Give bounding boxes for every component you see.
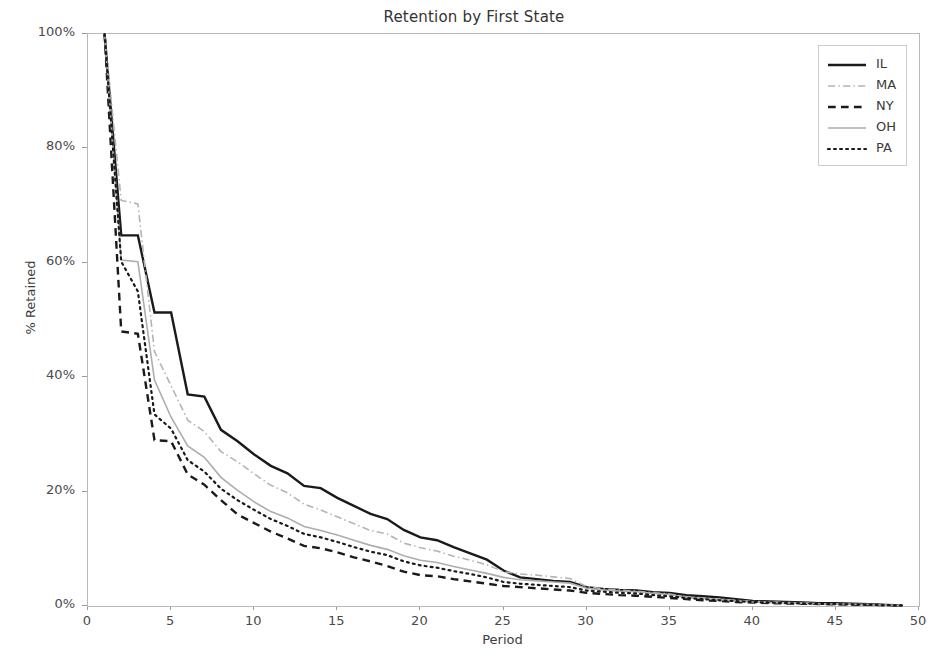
- chart-legend: ILMANYOHPA: [818, 45, 907, 166]
- y-tick-label: 100%: [38, 24, 75, 39]
- x-tick-label: 0: [83, 613, 91, 628]
- legend-item-il[interactable]: IL: [827, 53, 896, 74]
- x-tick-label: 35: [660, 613, 677, 628]
- legend-label-il: IL: [876, 57, 887, 70]
- y-tick-label: 80%: [46, 138, 75, 153]
- legend-label-ma: MA: [876, 78, 896, 91]
- legend-swatch-il: [827, 57, 867, 71]
- chart-figure: Retention by First State % Retained Peri…: [0, 0, 948, 669]
- x-tick-label: 10: [245, 613, 262, 628]
- chart-title: Retention by First State: [0, 8, 948, 26]
- x-tick-label: 15: [328, 613, 345, 628]
- x-tick-label: 25: [494, 613, 511, 628]
- series-line-pa: [105, 34, 903, 605]
- legend-label-pa: PA: [876, 141, 892, 154]
- x-tick-label: 45: [827, 613, 844, 628]
- x-tick-label: 40: [744, 613, 761, 628]
- series-line-il: [105, 34, 903, 605]
- x-axis-label: Period: [87, 632, 918, 647]
- legend-item-ma[interactable]: MA: [827, 74, 896, 95]
- x-tick-label: 20: [411, 613, 428, 628]
- y-tick-label: 40%: [46, 367, 75, 382]
- legend-swatch-ny: [827, 99, 867, 113]
- x-tick-label: 50: [910, 613, 927, 628]
- legend-item-ny[interactable]: NY: [827, 95, 896, 116]
- x-tick-label: 5: [166, 613, 174, 628]
- x-tick-label: 30: [577, 613, 594, 628]
- series-layer: [88, 34, 919, 606]
- legend-item-oh[interactable]: OH: [827, 116, 896, 137]
- legend-swatch-oh: [827, 120, 867, 134]
- y-tick-label: 60%: [46, 253, 75, 268]
- series-line-ny: [105, 34, 903, 605]
- legend-label-oh: OH: [876, 120, 896, 133]
- series-line-ma: [105, 34, 903, 605]
- y-axis-label: % Retained: [23, 228, 38, 368]
- legend-swatch-pa: [827, 141, 867, 155]
- series-line-oh: [105, 34, 903, 605]
- plot-area: [87, 33, 920, 607]
- y-tick-label: 20%: [46, 482, 75, 497]
- y-tick-label: 0%: [54, 596, 75, 611]
- legend-item-pa[interactable]: PA: [827, 137, 896, 158]
- legend-swatch-ma: [827, 78, 867, 92]
- legend-label-ny: NY: [876, 99, 894, 112]
